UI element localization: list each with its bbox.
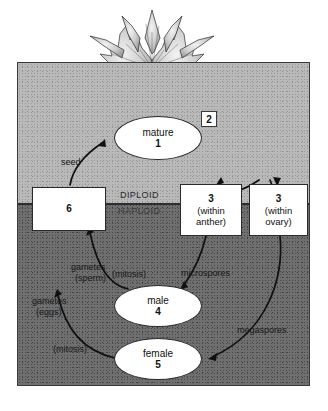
edge-label-gametes-eggs-line2: (eggs) <box>36 307 62 317</box>
edge-label-microspores: microspores <box>181 268 230 278</box>
node-male-label: male <box>147 295 169 307</box>
edge-label-mitosis-male: (mitosis) <box>112 269 146 279</box>
node-female-label: female <box>143 348 173 360</box>
node-male-gametophyte[interactable]: male 4 <box>114 285 202 327</box>
edge-label-megaspores: megaspores <box>237 325 287 335</box>
node-mature-number: 1 <box>155 138 161 150</box>
node-seed-box[interactable]: 6 <box>32 187 106 231</box>
node-ovary-sub-2: ovary) <box>265 216 291 227</box>
node-mature-sporophyte[interactable]: mature 1 <box>114 116 202 160</box>
node-ovary-number: 3 <box>276 193 282 205</box>
node-ovary-sub-1: (within <box>265 205 292 216</box>
node-female-gametophyte[interactable]: female 5 <box>114 338 202 380</box>
node-ovary-box[interactable]: 3 (within ovary) <box>249 184 308 236</box>
node-anther-sub-2: anther) <box>196 216 226 227</box>
node-mature-label: mature <box>142 127 173 139</box>
edge-label-seed: seed <box>61 157 81 167</box>
node-anther-number: 3 <box>208 193 214 205</box>
diploid-label: DIPLOID <box>120 190 159 200</box>
node-anther-box[interactable]: 3 (within anther) <box>180 184 242 236</box>
edge-label-gametes-sperm-line1: gametes <box>71 262 106 272</box>
figure-canvas: DIPLOID HAPLOID mature 1 male 4 female 5… <box>0 0 328 411</box>
edge-label-mitosis-female: (mitosis) <box>53 344 87 354</box>
node-female-number: 5 <box>155 359 161 371</box>
edge-label-gametes-eggs-line1: gametes <box>32 296 67 306</box>
haploid-label: HAPLOID <box>118 206 160 216</box>
node-anther-sub-1: (within <box>197 205 224 216</box>
node-flower-number[interactable]: 2 <box>201 111 217 127</box>
diagram-panel: DIPLOID HAPLOID mature 1 male 4 female 5… <box>17 62 310 386</box>
edge-label-gametes-sperm-line2: (sperm) <box>75 273 106 283</box>
node-seed-number: 6 <box>66 203 72 215</box>
node-male-number: 4 <box>155 306 161 318</box>
